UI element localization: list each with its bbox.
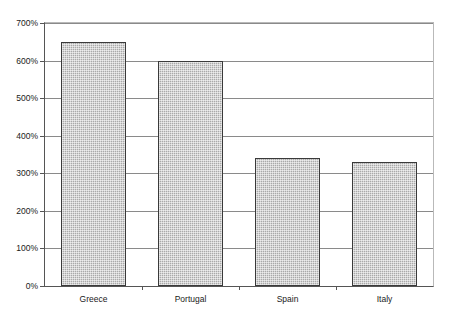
gridline xyxy=(45,23,433,24)
x-axis-tick xyxy=(336,286,337,290)
x-axis-category-label: Greece xyxy=(45,295,142,304)
bar xyxy=(352,162,416,286)
x-axis-category-label: Portugal xyxy=(142,295,239,304)
y-axis-tick-label: 700% xyxy=(0,19,38,28)
y-axis-tick-label: 100% xyxy=(0,244,38,253)
y-axis-tick-label: 600% xyxy=(0,57,38,66)
x-axis-category-label: Italy xyxy=(336,295,433,304)
x-axis-tick xyxy=(239,286,240,290)
bar xyxy=(255,158,319,286)
plot-area xyxy=(44,22,434,287)
y-axis-tick-label: 400% xyxy=(0,132,38,141)
y-axis-tick-label: 200% xyxy=(0,207,38,216)
y-axis-tick-label: 0% xyxy=(0,282,38,291)
x-axis-category-label: Spain xyxy=(239,295,336,304)
x-axis-tick xyxy=(142,286,143,290)
bar-chart: 0%100%200%300%400%500%600%700% GreecePor… xyxy=(0,0,449,318)
y-axis-tick-label: 300% xyxy=(0,169,38,178)
bar xyxy=(61,42,125,286)
y-axis-tick xyxy=(40,286,45,287)
bar xyxy=(158,61,222,286)
y-axis-tick-label: 500% xyxy=(0,94,38,103)
